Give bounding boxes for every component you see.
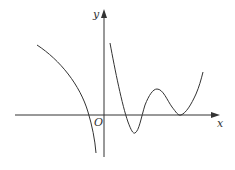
left-branch-curve: [37, 45, 96, 153]
y-axis-arrow-icon: [101, 9, 107, 18]
graph-canvas: [0, 0, 235, 170]
origin-label: O: [94, 117, 103, 128]
x-axis-label: x: [217, 118, 223, 129]
y-axis-label: y: [93, 9, 99, 20]
function-graph: y x O: [0, 0, 235, 170]
right-branch-curve: [110, 43, 203, 133]
